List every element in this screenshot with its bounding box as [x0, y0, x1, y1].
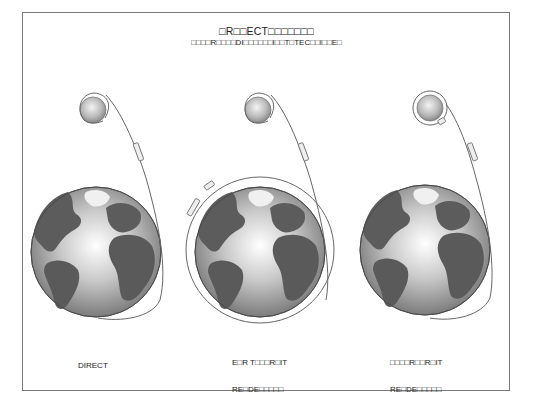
- spacecraft-module-icon: [437, 117, 446, 125]
- moon-icon: [417, 95, 443, 121]
- spacecraft-icon: [298, 143, 309, 162]
- panel-direct: [31, 93, 163, 319]
- spacecraft-icon: [187, 198, 200, 216]
- label-direct: DIRECT: [78, 343, 108, 379]
- label-lunar-orbit-rendezvous: □□□□R□□R□IT RE□DE□□□□□: [390, 340, 443, 403]
- label-earth-orbit-rendezvous: E□R T□□□R□IT RE□DE□□□□□: [232, 340, 287, 403]
- panel-lunar-orbit-rendezvous: [360, 91, 492, 319]
- panel-earth-orbit-rendezvous: [186, 93, 334, 323]
- spacecraft-icon: [133, 143, 144, 162]
- spacecraft-module-icon: [204, 180, 215, 190]
